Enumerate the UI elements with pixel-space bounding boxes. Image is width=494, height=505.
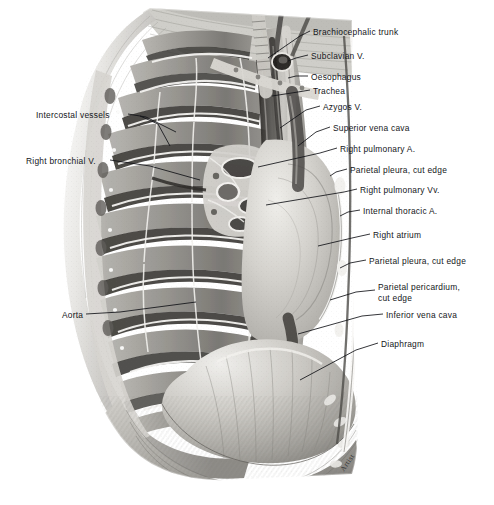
label-right-pulmonary-artery: Right pulmonary A. (340, 144, 415, 155)
label-aorta: Aorta (62, 310, 83, 321)
anatomical-plate: Brachiocephalic trunk Subclavian V. Oeso… (0, 0, 494, 505)
label-oesophagus: Oesophagus (311, 72, 361, 83)
label-trachea: Trachea (313, 86, 345, 97)
label-right-pulmonary-veins: Right pulmonary Vv. (360, 185, 440, 196)
label-superior-vena-cava: Superior vena cava (333, 123, 410, 134)
label-right-bronchial-vein: Right bronchial V. (26, 156, 96, 167)
label-diaphragm: Diaphragm (381, 339, 424, 350)
label-inferior-vena-cava: Inferior vena cava (386, 310, 457, 321)
label-parietal-pericardium: Parietal pericardium, cut edge (378, 282, 470, 303)
label-brachiocephalic-trunk: Brachiocephalic trunk (313, 27, 398, 38)
thorax-illustration (0, 0, 494, 505)
label-parietal-pleura-upper: Parietal pleura, cut edge (350, 165, 447, 176)
label-azygos-vein: Azygos V. (323, 102, 362, 113)
label-subclavian-vein: Subclavian V. (311, 51, 365, 62)
label-intercostal-vessels: Intercostal vessels (36, 110, 110, 121)
label-parietal-pleura-lower: Parietal pleura, cut edge (369, 256, 466, 267)
label-internal-thoracic-artery: Internal thoracic A. (363, 206, 437, 217)
label-right-atrium: Right atrium (373, 230, 421, 241)
